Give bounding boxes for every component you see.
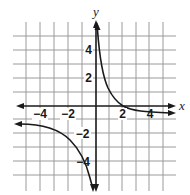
x-tick-label-neg4: −4 [33, 107, 47, 121]
x-tick-label-neg2: −2 [61, 107, 75, 121]
y-tick-label-neg4: −4 [76, 155, 90, 169]
x-axis-label: x [178, 98, 185, 113]
y-tick-label-2: 2 [85, 71, 92, 85]
y-tick-label-4: 4 [85, 43, 92, 57]
x-tick-label-2: 2 [119, 107, 126, 121]
y-tick-label-neg2: −2 [76, 127, 90, 141]
x-tick-label-4: 4 [147, 107, 154, 121]
function-graph: −4 −2 2 4 4 2 −2 −4 y x [0, 0, 190, 195]
y-axis-label: y [91, 4, 99, 19]
